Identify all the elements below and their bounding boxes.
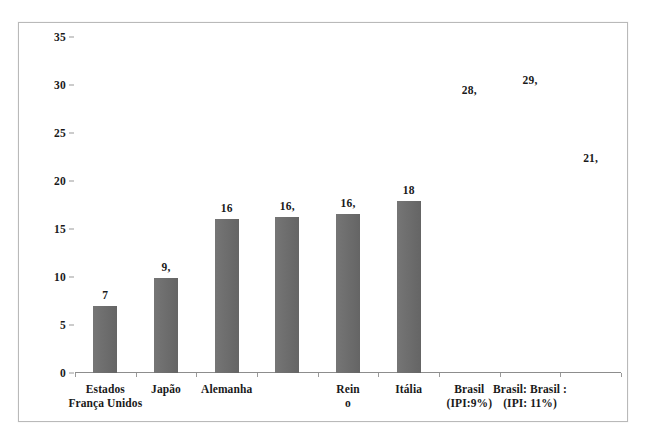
x-axis-label: Reino (336, 382, 359, 410)
x-axis-label-line1: Brasil: Brasil : (493, 383, 567, 395)
x-tick-mark (378, 373, 379, 377)
y-tick-label: 0 (60, 367, 66, 379)
bar (336, 214, 360, 373)
x-axis-label: Itália (395, 382, 422, 396)
x-axis-label: Alemanha (201, 382, 252, 396)
y-tick-label: 35 (54, 31, 66, 43)
y-tick-mark (69, 85, 74, 86)
x-axis-label-line1: Alemanha (201, 383, 252, 395)
y-tick-mark (69, 229, 74, 230)
x-tick-mark (500, 373, 501, 377)
y-tick-label: 10 (54, 271, 66, 283)
y-tick-mark (69, 37, 74, 38)
y-tick-label: 15 (54, 223, 66, 235)
x-axis-label-line1: Itália (395, 383, 422, 395)
data-label: 18 (403, 184, 415, 196)
plot-area: 05101520253035 79,1616,16,1828,29,21, Es… (75, 37, 621, 373)
x-axis-label-line2: (IPI:9%) (447, 396, 493, 410)
x-tick-mark (621, 373, 622, 377)
chart-page: 05101520253035 79,1616,16,1828,29,21, Es… (0, 0, 648, 447)
data-label: 7 (102, 289, 108, 301)
y-tick-label: 30 (54, 79, 66, 91)
bar (397, 201, 421, 373)
y-tick-label: 25 (54, 127, 66, 139)
data-label: 9, (161, 261, 170, 273)
x-tick-mark (75, 373, 76, 377)
x-tick-mark (439, 373, 440, 377)
x-axis-label-line1: Japão (151, 383, 181, 395)
y-tick-mark (69, 325, 74, 326)
x-axis-label-line2: França Unidos (68, 396, 142, 410)
x-axis-label-line1: Rein (336, 383, 359, 395)
y-tick-mark (69, 133, 74, 134)
data-label: 16, (280, 200, 295, 212)
bar (154, 278, 178, 373)
data-label: 16, (341, 197, 356, 209)
x-axis-label: Brasil(IPI:9%) (447, 382, 493, 410)
y-tick-mark (69, 373, 74, 374)
x-tick-mark (318, 373, 319, 377)
x-axis-label: EstadosFrança Unidos (68, 382, 142, 410)
x-tick-mark (136, 373, 137, 377)
x-tick-mark (560, 373, 561, 377)
data-label: 16 (221, 202, 233, 214)
data-label: 29, (523, 74, 538, 86)
data-label: 28, (462, 84, 477, 96)
y-tick-label: 20 (54, 175, 66, 187)
x-axis-label: Brasil: Brasil :(IPI: 11%) (493, 382, 567, 410)
y-tick-mark (69, 277, 74, 278)
bar (275, 217, 299, 373)
x-axis-label-line1: Brasil (454, 383, 484, 395)
y-tick-mark (69, 181, 74, 182)
y-tick-label: 5 (60, 319, 66, 331)
data-label: 21, (583, 152, 598, 164)
chart-frame: 05101520253035 79,1616,16,1828,29,21, Es… (18, 22, 628, 422)
x-axis-label-line2: o (336, 396, 359, 410)
x-axis-label-line1: Estados (86, 383, 125, 395)
x-axis-label: Japão (151, 382, 181, 396)
bar (215, 219, 239, 373)
x-tick-mark (257, 373, 258, 377)
x-axis-label-line2: (IPI: 11%) (493, 396, 567, 410)
bar (93, 306, 117, 373)
x-tick-mark (196, 373, 197, 377)
